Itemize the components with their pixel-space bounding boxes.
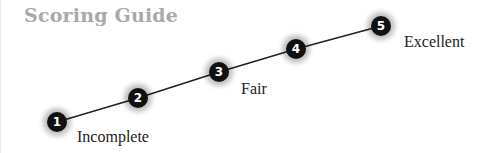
label-fair: Fair [241, 80, 267, 98]
level-3-marker: 3 [209, 62, 229, 82]
label-excellent: Excellent [404, 33, 464, 51]
level-2-marker: 2 [128, 88, 148, 108]
level-1-marker: 1 [47, 112, 67, 132]
level-4-marker: 4 [286, 39, 306, 59]
scale-line [1, 0, 487, 153]
label-incomplete: Incomplete [77, 128, 149, 146]
scoring-guide: Scoring Guide 1 2 3 4 5 Incomplete Fair … [0, 0, 487, 153]
level-5-marker: 5 [371, 16, 391, 36]
